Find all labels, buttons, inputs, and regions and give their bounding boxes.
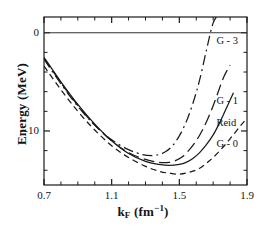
- x-axis-title-subscript: F: [125, 210, 131, 220]
- x-axis-title-base: k: [117, 204, 124, 219]
- y-axis-title: Energy (MeV): [14, 49, 30, 159]
- x-axis-units-open: (fm: [134, 204, 154, 219]
- x-tick-label: 1.9: [230, 189, 264, 201]
- x-tick-label: 1.5: [162, 189, 196, 201]
- figure-container: Energy (MeV) kF (fm−1) 0.71.11.51.90-10G…: [0, 0, 266, 227]
- x-axis-title: kF (fm−1): [78, 203, 208, 220]
- curve-label-g3: G - 3: [216, 35, 238, 46]
- x-axis-units-close: ): [164, 204, 169, 219]
- y-tick-label: -10: [9, 124, 39, 136]
- curve-label-reid: Reid: [216, 117, 236, 128]
- curve-label-g1: G - 1: [216, 95, 238, 106]
- x-tick-label: 0.7: [27, 189, 61, 201]
- x-axis-units-superscript: −1: [154, 203, 164, 213]
- curve-label-g0: G - 0: [216, 138, 238, 149]
- x-tick-label: 1.1: [95, 189, 129, 201]
- y-tick-label: 0: [9, 26, 39, 38]
